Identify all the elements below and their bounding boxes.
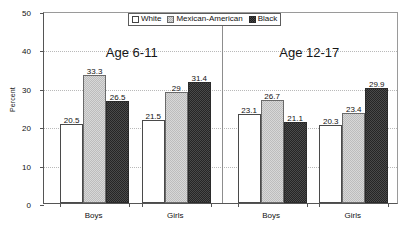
bar-value-label: 29 [172, 84, 181, 93]
bar-mexican-american [261, 100, 284, 203]
x-tick-mark [60, 203, 61, 207]
legend-leader-line [222, 26, 223, 35]
y-tick-mark [40, 51, 44, 52]
x-tick-label: Boys [262, 211, 280, 220]
x-tick-mark [319, 203, 320, 207]
x-tick-mark [142, 203, 143, 207]
bar-mexican-american [165, 92, 188, 203]
bar-black [106, 101, 129, 203]
panel-title: Age 6-11 [106, 45, 158, 60]
y-tick-label: 20 [0, 124, 31, 133]
bar-value-label: 21.1 [287, 114, 303, 123]
y-tick-label: 40 [0, 47, 31, 56]
bar-white [238, 114, 261, 203]
bar-mexican-american [83, 75, 106, 203]
bar-value-label: 20.3 [323, 117, 339, 126]
x-tick-mark [388, 203, 389, 207]
y-tick-label: 0 [0, 201, 31, 210]
x-tick-mark [211, 203, 212, 207]
bar-mexican-american [342, 113, 365, 203]
bar-value-label: 31.4 [191, 74, 207, 83]
y-tick-label: 30 [0, 86, 31, 95]
bar-white [319, 125, 342, 203]
bar-black [365, 88, 388, 203]
x-tick-mark [238, 203, 239, 207]
legend-item-mexican-american: Mexican-American [167, 15, 242, 23]
legend-item-white: White [132, 15, 161, 23]
y-tick-label: 50 [0, 9, 31, 18]
y-tick-mark [40, 128, 44, 129]
x-tick-label: Boys [85, 211, 103, 220]
chart-legend: WhiteMexican-AmericanBlack [128, 13, 281, 26]
y-tick-mark [40, 13, 44, 14]
x-tick-mark [307, 203, 308, 207]
bar-black [188, 82, 211, 203]
y-tick-mark [40, 205, 44, 206]
y-tick-mark [40, 167, 44, 168]
bar-value-label: 23.4 [346, 105, 362, 114]
x-tick-label: Girls [167, 211, 183, 220]
legend-label: Mexican-American [176, 15, 242, 23]
bar-white [60, 124, 83, 203]
y-tick-label: 10 [0, 163, 31, 172]
bar-chart: Percent 0102030405020.533.326.521.52931.… [0, 0, 406, 240]
bar-value-label: 21.5 [145, 112, 161, 121]
legend-item-black: Black [249, 15, 278, 23]
bar-value-label: 23.1 [241, 106, 257, 115]
x-tick-label: Girls [345, 211, 361, 220]
legend-swatch-icon [167, 16, 174, 23]
legend-swatch-icon [132, 16, 139, 23]
plot-area: 0102030405020.533.326.521.52931.423.126.… [43, 12, 398, 204]
bar-value-label: 29.9 [369, 80, 385, 89]
gridline [44, 51, 397, 52]
bar-black [284, 122, 307, 203]
legend-swatch-icon [249, 16, 256, 23]
panel-title: Age 12-17 [279, 45, 339, 60]
bar-value-label: 26.7 [264, 92, 280, 101]
bar-value-label: 20.5 [64, 116, 80, 125]
legend-label: White [141, 15, 161, 23]
legend-label: Black [258, 15, 278, 23]
bar-value-label: 33.3 [87, 67, 103, 76]
panel-divider [222, 13, 223, 203]
y-tick-mark [40, 90, 44, 91]
bar-value-label: 26.5 [110, 93, 126, 102]
x-tick-mark [129, 203, 130, 207]
bar-white [142, 120, 165, 203]
